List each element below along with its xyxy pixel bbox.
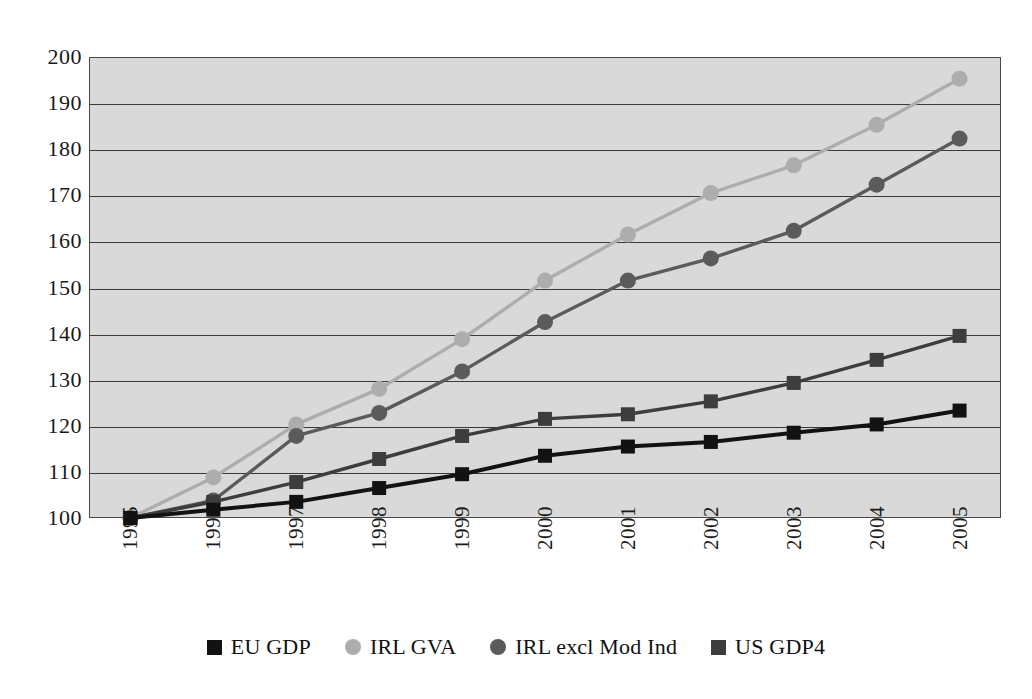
legend-item-label: IRL excl Mod Ind [515,636,677,658]
y-axis-tick-label: 110 [8,461,82,483]
legend-item: IRL GVA [345,636,456,658]
x-axis-tick-label: 1999 [452,526,473,550]
y-axis-tick-label: 100 [8,507,82,529]
y-axis-tick-label: 140 [8,323,82,345]
gridline [90,427,1000,428]
legend-item-label: IRL GVA [370,636,456,658]
gridline [90,196,1000,197]
y-axis-tick-label: 200 [8,46,82,68]
x-axis-tick-label: 2000 [535,526,556,550]
x-axis-tick-label: 2002 [701,526,722,550]
gridline [90,335,1000,336]
legend-item: IRL excl Mod Ind [490,636,677,658]
legend-item-label: US GDP4 [735,636,825,658]
y-axis-tick-label: 170 [8,184,82,206]
plot-area [89,57,1001,518]
gridline [90,381,1000,382]
x-axis-tick-label: 2001 [618,526,639,550]
x-axis-tick-label: 1997 [286,526,307,550]
legend-circle-icon [345,639,361,655]
x-axis-tick-label: 2005 [950,526,971,550]
gridline [90,150,1000,151]
legend-circle-icon [490,639,506,655]
legend-item: US GDP4 [711,636,825,658]
legend-item: EU GDP [207,636,311,658]
legend-square-icon [207,640,222,655]
x-axis-tick-label: 2004 [867,526,888,550]
y-axis-tick-label: 130 [8,369,82,391]
chart-legend: EU GDPIRL GVAIRL excl Mod IndUS GDP4 [0,636,1032,658]
line-chart: 200190180170160150140130120110100 199519… [0,0,1032,699]
gridline [90,473,1000,474]
gridline [90,104,1000,105]
x-axis-tick-label: 1998 [369,526,390,550]
y-axis-tick-label: 120 [8,415,82,437]
legend-square-icon [711,640,726,655]
x-axis-tick-label: 1996 [203,526,224,550]
y-axis-tick-label: 180 [8,138,82,160]
legend-item-label: EU GDP [231,636,311,658]
y-axis-tick-label: 150 [8,277,82,299]
y-axis: 200190180170160150140130120110100 [0,0,82,699]
x-axis-tick-label: 2003 [784,526,805,550]
x-axis-tick-label: 1995 [120,526,141,550]
gridline [90,289,1000,290]
y-axis-tick-label: 160 [8,230,82,252]
gridline [90,242,1000,243]
y-axis-tick-label: 190 [8,92,82,114]
